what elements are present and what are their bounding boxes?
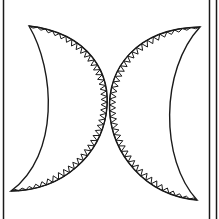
crescent-illustration [0,0,219,219]
